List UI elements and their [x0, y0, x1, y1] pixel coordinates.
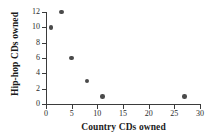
- x-tick-label: 20: [139, 110, 159, 118]
- y-tick-label-wrapper: 8: [22, 39, 40, 47]
- x-tick-label: 0: [36, 110, 56, 118]
- x-tick-label: 30: [190, 110, 210, 118]
- x-tick-label-wrapper: 5: [62, 110, 82, 119]
- x-tick-label-wrapper: 10: [87, 110, 107, 119]
- y-tick-label-wrapper: 10: [22, 23, 40, 31]
- y-tick-label: 2: [22, 85, 40, 93]
- y-tick-label: 4: [22, 69, 40, 77]
- data-point: [49, 25, 54, 30]
- y-tick-label-wrapper: 12: [22, 8, 40, 16]
- data-point: [69, 56, 74, 61]
- x-tick-label: 15: [113, 110, 133, 118]
- y-tick-label: 12: [22, 8, 40, 16]
- x-tick-label-wrapper: 30: [190, 110, 210, 119]
- x-axis-title: Country CDs owned: [46, 122, 201, 132]
- x-tick-label: 25: [164, 110, 184, 118]
- scatter-plot-figure: 024681012 051015202530 Country CDs owned…: [0, 0, 211, 140]
- data-point: [100, 94, 105, 99]
- x-tick-label: 10: [87, 110, 107, 118]
- data-point: [59, 10, 64, 15]
- y-tick-label-wrapper: 4: [22, 69, 40, 77]
- data-point: [182, 94, 187, 99]
- x-tick-label-wrapper: 15: [113, 110, 133, 119]
- x-tick-label-wrapper: 0: [36, 110, 56, 119]
- x-tick-label-wrapper: 25: [164, 110, 184, 119]
- data-point: [85, 79, 90, 84]
- y-axis-title: Hip-hop CDs owned: [9, 4, 21, 104]
- y-tick-label: 0: [22, 100, 40, 108]
- y-tick-label: 8: [22, 39, 40, 47]
- y-tick-label: 10: [22, 23, 40, 31]
- plot-area: [46, 12, 200, 104]
- y-tick-label-wrapper: 0: [22, 100, 40, 108]
- x-tick-label: 5: [62, 110, 82, 118]
- x-tick-label-wrapper: 20: [139, 110, 159, 119]
- y-tick-label-wrapper: 6: [22, 54, 40, 62]
- y-tick-label-wrapper: 2: [22, 85, 40, 93]
- y-tick-label: 6: [22, 54, 40, 62]
- y-axis-title-wrapper: Hip-hop CDs owned: [9, 4, 21, 104]
